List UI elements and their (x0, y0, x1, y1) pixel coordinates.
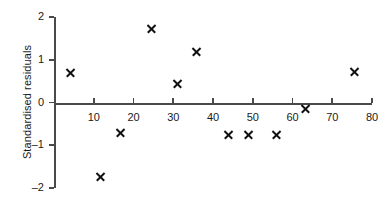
y-tick (49, 144, 54, 146)
data-point-marker (115, 127, 126, 138)
x-tick-label: 10 (82, 112, 106, 123)
y-tick-label: 0 (22, 97, 44, 108)
data-point-marker (172, 78, 183, 89)
y-tick-label: 2 (22, 11, 44, 22)
x-tick-label: 50 (241, 112, 265, 123)
data-point-marker (191, 46, 202, 57)
x-tick-label: 30 (161, 112, 185, 123)
x-tick-label: 60 (281, 112, 305, 123)
x-tick-label: 40 (201, 112, 225, 123)
data-point-marker (243, 129, 254, 140)
y-tick-label: –1 (22, 139, 44, 150)
scatter-plot-figure: Standardised residuals 210–1–2 102030405… (0, 0, 392, 205)
x-tick (371, 98, 373, 103)
data-point-marker (349, 66, 360, 77)
data-point-marker (146, 23, 157, 34)
y-tick (49, 187, 54, 189)
y-tick (49, 102, 54, 104)
data-point-marker (271, 129, 282, 140)
x-tick (252, 98, 254, 103)
x-tick (212, 98, 214, 103)
x-tick (172, 98, 174, 103)
data-point-marker (223, 129, 234, 140)
y-tick (49, 59, 54, 61)
y-tick-label: –2 (22, 182, 44, 193)
data-point-marker (95, 171, 106, 182)
x-tick (133, 98, 135, 103)
y-tick-label: 1 (22, 54, 44, 65)
x-tick-label: 20 (122, 112, 146, 123)
x-tick (93, 98, 95, 103)
data-point-marker (65, 67, 76, 78)
x-tick (331, 98, 333, 103)
x-axis-line (54, 103, 372, 105)
x-tick-label: 80 (360, 112, 384, 123)
data-point-marker (300, 103, 311, 114)
x-tick-label: 70 (320, 112, 344, 123)
x-tick (292, 98, 294, 103)
y-tick (49, 16, 54, 18)
